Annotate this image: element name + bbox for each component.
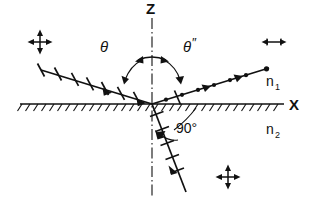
medium-n2-subscript: 2 — [275, 130, 280, 140]
diagram-canvas: Z — [0, 0, 310, 204]
right-angle-label: 90° — [176, 120, 197, 136]
x-axis-label: X — [289, 96, 299, 113]
angle-theta-label: θ — [100, 38, 108, 55]
optics-ray-diagram: Z — [0, 0, 310, 204]
medium-n2-label: n — [266, 121, 274, 137]
medium-n1-label: n — [266, 73, 274, 89]
figure-background — [0, 0, 310, 204]
medium-n1-subscript: 1 — [275, 82, 280, 92]
angle-theta-dp-label: θ — [183, 38, 191, 55]
angle-theta-dp-prime-mark: ″ — [192, 35, 197, 50]
z-axis-label: Z — [146, 0, 155, 17]
